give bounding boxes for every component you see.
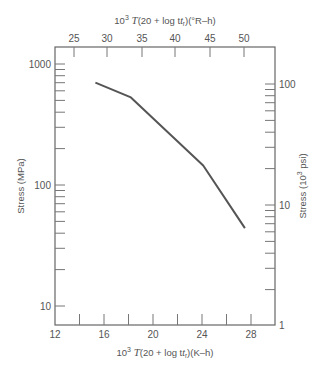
plot-frame xyxy=(55,47,275,325)
svg-text:45: 45 xyxy=(204,33,216,44)
svg-text:100: 100 xyxy=(279,79,296,90)
svg-text:100: 100 xyxy=(34,180,51,191)
left-axis-tick-labels: 1000 100 10 xyxy=(29,59,52,312)
svg-text:35: 35 xyxy=(136,33,148,44)
left-axis-title: Stress (MPa) xyxy=(15,158,26,213)
left-axis-ticks xyxy=(55,64,65,306)
svg-text:10: 10 xyxy=(279,200,291,211)
svg-text:50: 50 xyxy=(238,33,250,44)
svg-text:20: 20 xyxy=(147,329,159,340)
svg-text:16: 16 xyxy=(98,329,110,340)
right-axis-tick-labels: 100 10 1 xyxy=(279,79,296,331)
svg-text:1: 1 xyxy=(279,320,285,331)
top-axis-ticks xyxy=(74,47,244,57)
svg-text:12: 12 xyxy=(49,329,61,340)
bottom-axis-tick-labels: 12 16 20 24 28 xyxy=(49,329,257,340)
stress-curve xyxy=(95,83,245,228)
right-axis-title: Stress (103 psi) xyxy=(296,153,308,218)
right-axis-ticks xyxy=(265,84,275,290)
svg-text:40: 40 xyxy=(169,33,181,44)
svg-text:30: 30 xyxy=(101,33,113,44)
bottom-axis-ticks xyxy=(80,314,252,325)
svg-text:25: 25 xyxy=(68,33,80,44)
top-axis-title: 103 T(20 + log ttr)(°R–h) xyxy=(114,14,215,27)
svg-text:28: 28 xyxy=(245,329,257,340)
svg-text:24: 24 xyxy=(196,329,208,340)
svg-text:1000: 1000 xyxy=(29,59,52,70)
top-axis-tick-labels: 25 30 35 40 45 50 xyxy=(68,33,250,44)
bottom-axis-title: 103 T(20 + log ttr)(K–h) xyxy=(117,346,214,359)
svg-text:10: 10 xyxy=(40,301,52,312)
larson-miller-chart: 25 30 35 40 45 50 103 T(20 + log ttr)(°R… xyxy=(0,0,322,365)
